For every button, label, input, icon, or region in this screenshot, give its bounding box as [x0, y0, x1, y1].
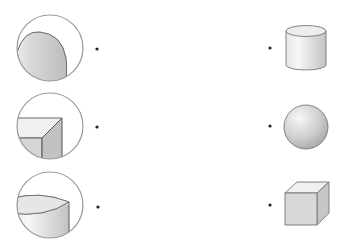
- match-dot-right-3[interactable]: [268, 203, 271, 206]
- match-dot-right-2[interactable]: [268, 124, 271, 127]
- match-dot-left-3[interactable]: [96, 205, 99, 208]
- match-dot-left-2[interactable]: [95, 125, 98, 128]
- cube-corner-icon: [10, 93, 83, 170]
- cylinder-edge-icon: [10, 172, 83, 245]
- cube-icon: [285, 182, 329, 225]
- match-dot-right-1[interactable]: [268, 46, 271, 49]
- sphere-icon: [284, 105, 328, 149]
- sphere-segment-icon: [10, 15, 83, 90]
- cylinder-icon: [286, 26, 326, 71]
- match-dot-left-1[interactable]: [95, 47, 98, 50]
- worksheet-canvas: [0, 0, 347, 245]
